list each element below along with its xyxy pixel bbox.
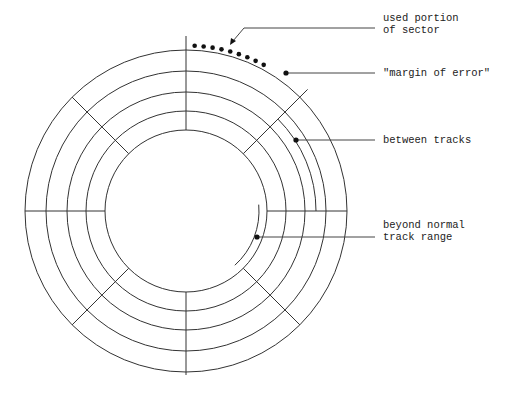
used-portion-dot bbox=[245, 55, 250, 60]
sector-divider-135 bbox=[72, 97, 129, 154]
track-circle-5 bbox=[105, 130, 267, 292]
used-portion-dot bbox=[192, 43, 197, 48]
used-portion-dots bbox=[192, 43, 266, 67]
beyond-normal-range-arc bbox=[235, 205, 259, 266]
label-beyond-normal-line2: track range bbox=[383, 231, 452, 243]
used-portion-dot bbox=[261, 63, 266, 68]
label-margin-of-error: "margin of error" bbox=[383, 67, 490, 79]
used-portion-dot bbox=[201, 44, 206, 49]
leader-used-portion bbox=[233, 28, 375, 41]
margin-of-error-dot bbox=[283, 70, 288, 75]
between-tracks-dot bbox=[293, 137, 298, 142]
label-beyond-normal-line1: beyond normal bbox=[383, 219, 465, 231]
sector-divider-225 bbox=[72, 268, 129, 325]
label-used-portion-line1: used portion bbox=[383, 12, 459, 24]
sector-dividers bbox=[25, 36, 347, 375]
label-used-portion-line2: of sector bbox=[383, 24, 440, 36]
used-portion-dot bbox=[219, 47, 224, 52]
used-portion-dot bbox=[253, 59, 258, 64]
beyond-normal-dot bbox=[254, 234, 259, 239]
used-portion-dot bbox=[210, 45, 215, 50]
used-portion-dot bbox=[228, 49, 233, 54]
label-between-tracks: between tracks bbox=[383, 134, 471, 146]
sector-divider-315 bbox=[243, 268, 300, 325]
disk-track-diagram bbox=[0, 0, 509, 396]
used-portion-dot bbox=[237, 52, 242, 57]
between-tracks-arc bbox=[278, 119, 316, 211]
